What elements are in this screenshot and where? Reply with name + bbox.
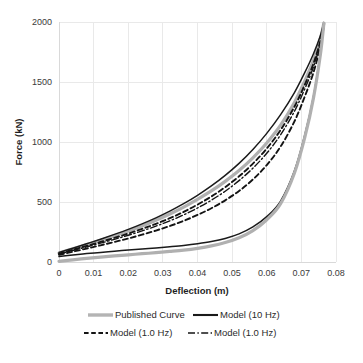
legend-label: Model (1.0 Hz) <box>110 327 172 338</box>
force-deflection-chart: 00.010.020.030.040.050.060.070.08 050010… <box>0 0 363 363</box>
legend-label: Model (10 Hz) <box>220 309 280 320</box>
y-tick-label: 2000 <box>32 17 52 27</box>
x-tick-label: 0.01 <box>85 268 103 278</box>
x-tick-label: 0.06 <box>258 268 276 278</box>
legend-label: Model (1.0 Hz) <box>214 327 276 338</box>
curve-solid-thick-gray <box>59 23 324 253</box>
chart-gridlines <box>59 22 336 262</box>
x-tick-label: 0 <box>56 268 61 278</box>
y-tick-label: 0 <box>47 257 52 267</box>
x-tick-label: 0.08 <box>327 268 345 278</box>
y-tick-label: 1500 <box>32 77 52 87</box>
x-tick-label: 0.03 <box>154 268 172 278</box>
chart-figure: 00.010.020.030.040.050.060.070.08 050010… <box>0 0 363 363</box>
x-tick-label: 0.07 <box>293 268 311 278</box>
y-tick-label: 1000 <box>32 137 52 147</box>
y-axis-title: Force (kN) <box>13 119 24 166</box>
y-axis-tick-labels: 0500100015002000 <box>32 17 52 267</box>
chart-legend: Published CurveModel (10 Hz)Model (1.0 H… <box>84 309 280 338</box>
legend-label: Published Curve <box>115 309 185 320</box>
x-axis-title: Deflection (m) <box>165 285 228 296</box>
x-axis-tick-labels: 00.010.020.030.040.050.060.070.08 <box>56 268 344 278</box>
curve-dashed-black <box>59 25 324 254</box>
x-tick-label: 0.02 <box>119 268 137 278</box>
x-tick-label: 0.05 <box>223 268 241 278</box>
y-tick-label: 500 <box>37 197 52 207</box>
curve-solid-black <box>59 23 324 256</box>
curve-solid-black <box>59 23 324 253</box>
x-tick-label: 0.04 <box>189 268 207 278</box>
